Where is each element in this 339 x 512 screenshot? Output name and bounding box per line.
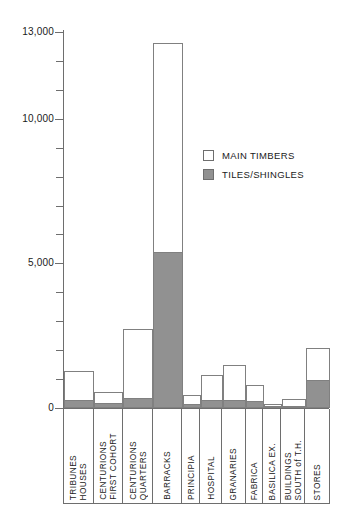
bar-segment-tiles-shingles: [246, 401, 264, 408]
x-axis-label-line: HOUSES: [78, 463, 88, 500]
x-axis-label-cell-10: STORES: [305, 409, 329, 503]
bar-segment-tiles-shingles: [64, 400, 94, 408]
y-tick-13000: [55, 32, 64, 33]
y-tick-12000: [56, 61, 64, 62]
x-axis-label-cell-3: BARRACKS: [153, 409, 183, 503]
x-axis-label-line: BASILICA EX.: [267, 443, 277, 500]
x-axis-label-line: PRINCIPIA: [186, 455, 196, 500]
x-axis-label-inner: GRANARIES: [222, 410, 244, 500]
x-axis-label-cell-5: HOSPITAL: [200, 409, 222, 503]
bar-series-group: [64, 30, 329, 408]
x-axis-label-line: SOUTH of T.H.: [293, 440, 303, 500]
bar-barracks: [153, 43, 183, 408]
x-axis-label-cell-0: TRIBUNESHOUSES: [64, 409, 94, 503]
x-axis-label-cell-4: PRINCIPIA: [182, 409, 200, 503]
bar-segment-tiles-shingles: [94, 403, 124, 408]
x-axis-label-inner: FABRICA: [246, 410, 263, 500]
x-axis-label-cell-7: FABRICA: [246, 409, 264, 503]
x-axis-label-inner: BUILDINGSSOUTH of T.H.: [281, 410, 303, 500]
legend-swatch-icon-main-timbers: [203, 150, 214, 161]
y-tick-5000: [55, 263, 64, 264]
x-axis-label-line: HOSPITAL: [206, 456, 216, 500]
x-axis-label-inner: BARRACKS: [153, 410, 182, 500]
x-axis-label-line: GRANARIES: [228, 448, 238, 500]
x-axis-label-inner: CENTURIONSQUARTERS: [123, 410, 152, 500]
x-axis-label-line: FABRICA: [249, 462, 259, 500]
x-axis-label-inner: STORES: [305, 410, 329, 500]
chart-legend: MAIN TIMBERS TILES/SHINGLES: [203, 147, 335, 185]
x-axis-label-inner: HOSPITAL: [200, 410, 221, 500]
y-tick-label-13000: 13,000: [2, 27, 54, 37]
x-axis-label-line: TRIBUNES: [68, 455, 78, 500]
y-tick-label-wrap-10000: 10,000: [0, 114, 54, 124]
y-tick-2000: [56, 350, 64, 351]
bar-segment-tiles-shingles: [183, 404, 201, 408]
y-tick-1000: [56, 379, 64, 380]
bar-tribunes-houses: [64, 371, 94, 408]
bar-segment-tiles-shingles: [123, 398, 153, 408]
y-tick-label-10000: 10,000: [2, 114, 54, 124]
bar-segment-tiles-shingles: [223, 400, 246, 408]
x-axis-label-inner: CENTURIONSFIRST COHORT: [94, 410, 123, 500]
y-tick-label-wrap-13000: 13,000: [0, 27, 54, 37]
legend-item-main-timbers: MAIN TIMBERS: [203, 147, 335, 163]
x-axis-label-cell-9: BUILDINGSSOUTH of T.H.: [281, 409, 304, 503]
x-axis-label-line: CENTURIONS: [128, 441, 138, 500]
y-tick-label-5000: 5,000: [2, 258, 54, 268]
y-tick-10000: [55, 119, 64, 120]
legend-label-main-timbers: MAIN TIMBERS: [222, 150, 295, 161]
y-tick-8000: [56, 177, 64, 178]
y-tick-3000: [56, 321, 64, 322]
bar-principia: [183, 395, 201, 408]
bar-segment-tiles-shingles: [264, 406, 282, 408]
bar-segment-tiles-shingles: [153, 252, 183, 408]
x-axis-label-line: CENTURIONS: [98, 441, 108, 500]
y-tick-label-wrap-0: 0: [0, 403, 54, 413]
bar-buildings-south-of-t-h: [282, 399, 305, 408]
x-axis-label-cell-2: CENTURIONSQUARTERS: [123, 409, 153, 503]
x-axis-label-inner: BASILICA EX.: [263, 410, 280, 500]
x-axis-label-cell-8: BASILICA EX.: [263, 409, 281, 503]
bar-hospital: [201, 375, 223, 408]
x-axis-label-line: FIRST COHORT: [108, 433, 118, 500]
x-axis-label-line: STORES: [312, 464, 322, 500]
y-tick-6000: [56, 234, 64, 235]
y-tick-9000: [56, 148, 64, 149]
bar-stores: [306, 348, 330, 408]
x-axis-label-line: QUARTERS: [138, 451, 148, 500]
x-axis-label-inner: TRIBUNESHOUSES: [64, 410, 93, 500]
x-axis-label-line: BARRACKS: [162, 451, 172, 500]
bar-basilica-ex: [264, 404, 282, 408]
bar-fabrica: [246, 385, 264, 408]
bar-chart-figure: 13,00010,0005,0000 MAIN TIMBERS TILES/SH…: [0, 0, 339, 512]
y-tick-label-wrap-5000: 5,000: [0, 258, 54, 268]
legend-label-tiles-shingles: TILES/SHINGLES: [222, 169, 304, 180]
bar-segment-tiles-shingles: [282, 406, 305, 408]
y-tick-4000: [56, 292, 64, 293]
x-axis-label-cell-1: CENTURIONSFIRST COHORT: [94, 409, 124, 503]
y-tick-7000: [56, 206, 64, 207]
bar-centurions-first-cohort: [94, 392, 124, 408]
legend-swatch-icon-tiles-shingles: [203, 169, 214, 180]
legend-item-tiles-shingles: TILES/SHINGLES: [203, 166, 335, 182]
bar-centurions-quarters: [123, 329, 153, 408]
y-tick-11000: [56, 90, 64, 91]
x-axis-label-line: BUILDINGS: [283, 452, 293, 500]
bar-granaries: [223, 365, 246, 408]
y-tick-label-0: 0: [2, 403, 54, 413]
bar-segment-tiles-shingles: [201, 400, 223, 408]
bar-segment-tiles-shingles: [306, 380, 330, 408]
x-axis-label-cell-6: GRANARIES: [222, 409, 245, 503]
x-axis-category-labels: TRIBUNESHOUSESCENTURIONSFIRST COHORTCENT…: [63, 409, 330, 504]
x-axis-label-inner: PRINCIPIA: [182, 410, 199, 500]
